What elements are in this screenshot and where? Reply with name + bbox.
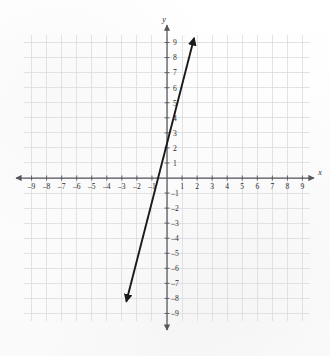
y-tick-label: –1: [170, 189, 179, 198]
y-tick-label: 6: [173, 84, 177, 93]
x-tick-label: 9: [301, 182, 305, 191]
y-tick-label: 1: [173, 159, 177, 168]
y-tick-label: –7: [170, 279, 179, 288]
x-tick-label: 1: [180, 182, 184, 191]
y-tick-label: 7: [173, 68, 177, 77]
x-tick-label: –3: [117, 182, 126, 191]
x-tick-label: –2: [132, 182, 141, 191]
y-tick-label: 3: [173, 129, 177, 138]
plot-area: –9–8–7–6–5–4–3–2–1123456789 987654321–1–…: [0, 0, 330, 356]
y-axis-label: y: [161, 15, 166, 24]
y-tick-label: –4: [170, 234, 179, 243]
x-tick-label: –6: [72, 182, 81, 191]
y-tick-label: –9: [170, 309, 179, 318]
x-tick-label: –8: [42, 182, 51, 191]
y-tick-label: 8: [173, 53, 177, 62]
y-tick-label: –6: [170, 264, 179, 273]
y-tick-label: –5: [170, 249, 179, 258]
x-tick-label: 4: [225, 182, 229, 191]
y-tick-label: –8: [170, 294, 179, 303]
x-tick-label: 8: [286, 182, 290, 191]
x-tick-label: 2: [195, 182, 199, 191]
y-tick-label: 2: [173, 144, 177, 153]
x-tick-label: 3: [210, 182, 214, 191]
y-tick-label: –2: [170, 204, 179, 213]
x-tick-label: –7: [57, 182, 66, 191]
coordinate-plane-graph: –9–8–7–6–5–4–3–2–1123456789 987654321–1–…: [0, 0, 330, 356]
x-tick-label: –4: [102, 182, 111, 191]
x-axis-tick-labels: –9–8–7–6–5–4–3–2–1123456789: [27, 182, 305, 191]
x-tick-label: 7: [270, 182, 274, 191]
y-tick-label: 9: [173, 38, 177, 47]
plotted-line-y-equals-4x: [126, 38, 194, 301]
x-tick-label: 5: [240, 182, 244, 191]
y-tick-label: –3: [170, 219, 179, 228]
x-tick-label: –5: [87, 182, 96, 191]
x-tick-label: 6: [255, 182, 259, 191]
x-tick-label: –9: [27, 182, 36, 191]
x-axis-label: x: [317, 168, 322, 177]
